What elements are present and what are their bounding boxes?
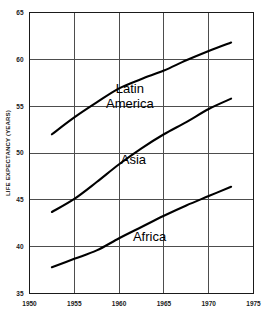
y-tick-label: 45 [16,196,24,203]
series-line-africa [52,187,231,268]
y-tick-label: 40 [16,243,24,250]
series-annotation-label: Latin [116,81,144,96]
series-annotation-label: Asia [121,152,147,167]
x-axis-tick-labels: 195019551960196519701975 [22,300,261,307]
chart-canvas: 195019551960196519701975 35404550556065 … [0,0,271,321]
x-tick-label: 1975 [246,300,261,307]
x-tick-label: 1950 [22,300,37,307]
y-tick-label: 35 [16,290,24,297]
x-tick-label: 1970 [201,300,216,307]
series-annotation-label: America [106,96,154,111]
series-annotation-label: Africa [133,229,167,244]
x-tick-label: 1955 [67,300,82,307]
y-axis-title-text: LIFE EXPECTANCY (YEARS) [5,110,11,196]
x-tick-label: 1965 [157,300,172,307]
y-tick-label: 65 [16,9,24,16]
y-tick-label: 60 [16,56,24,63]
x-tick-label: 1960 [112,300,127,307]
y-tick-label: 55 [16,103,24,110]
y-axis-title: LIFE EXPECTANCY (YEARS) [5,110,11,196]
y-tick-label: 50 [16,149,24,156]
life-expectancy-chart: 195019551960196519701975 35404550556065 … [0,0,271,321]
y-axis-tick-labels: 35404550556065 [16,9,24,297]
